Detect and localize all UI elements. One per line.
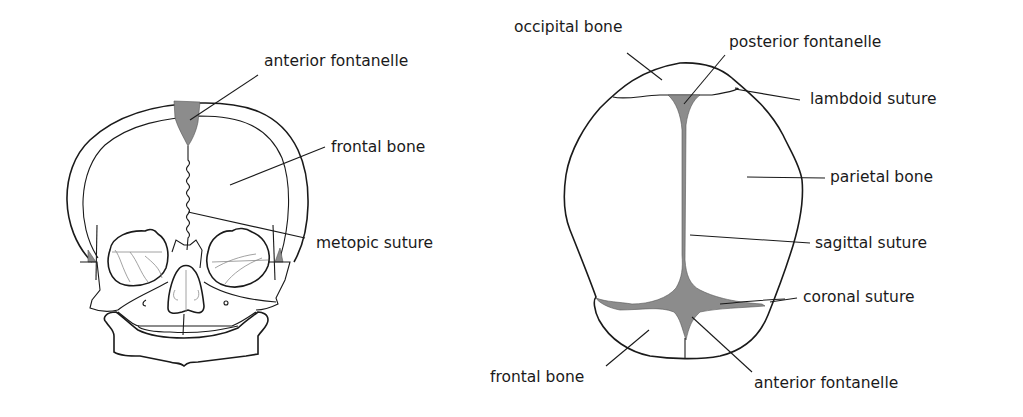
- upper-alveolar: [138, 326, 238, 333]
- front-view-skull: [67, 101, 308, 366]
- left-orbit: [108, 230, 168, 286]
- label-posterior-fontanelle: posterior fontanelle: [729, 33, 881, 51]
- label-lambdoid-suture: lambdoid suture: [810, 90, 937, 108]
- label-frontal-bone-top: frontal bone: [490, 368, 584, 386]
- small-foramen-left: [143, 300, 146, 306]
- skull-diagram: anterior fontanelle frontal bone metopic…: [0, 0, 1023, 417]
- label-parietal-bone: parietal bone: [830, 168, 933, 186]
- label-coronal-suture: coronal suture: [803, 288, 914, 306]
- small-foramen-right: [224, 301, 228, 305]
- label-occipital-bone: occipital bone: [514, 18, 622, 36]
- label-anterior-fontanelle-top: anterior fontanelle: [754, 374, 898, 392]
- label-metopic-suture: metopic suture: [316, 234, 433, 252]
- label-frontal-bone-front: frontal bone: [331, 138, 425, 156]
- label-sagittal-suture: sagittal suture: [815, 234, 927, 252]
- top-view-skull: [564, 63, 802, 359]
- label-anterior-fontanelle-front: anterior fontanelle: [264, 52, 408, 70]
- maxilla-lower: [118, 312, 256, 326]
